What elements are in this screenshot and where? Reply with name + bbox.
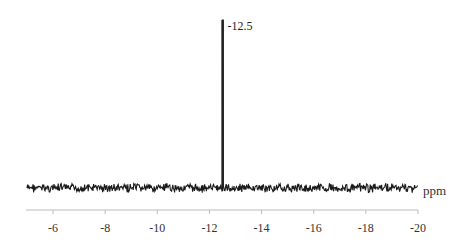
x-tick-label: -20 — [410, 221, 426, 235]
x-axis-label: ppm — [423, 183, 446, 198]
nmr-spectrum-chart: -6-8-10-12-14-16-18-20 ppm -12.5 — [0, 0, 469, 249]
x-tick-label: -14 — [254, 221, 270, 235]
x-tick-label: -12 — [201, 221, 217, 235]
x-tick-label: -6 — [48, 221, 58, 235]
peak-annotation: -12.5 — [227, 19, 252, 33]
x-axis-ticks: -6-8-10-12-14-16-18-20 — [48, 210, 426, 235]
x-tick-label: -18 — [358, 221, 374, 235]
spectrum-trace — [27, 20, 418, 193]
x-tick-label: -10 — [149, 221, 165, 235]
x-tick-label: -8 — [100, 221, 110, 235]
x-tick-label: -16 — [306, 221, 322, 235]
